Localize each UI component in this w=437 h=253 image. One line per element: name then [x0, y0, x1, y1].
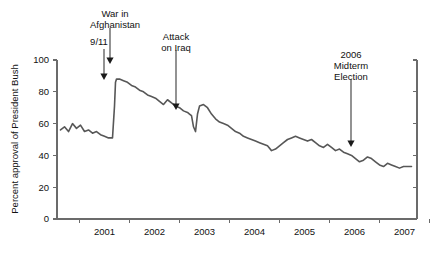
y-tick-label: 80	[38, 86, 49, 97]
annotation-label: Attack	[163, 31, 190, 42]
x-tick-group: 2001200220032004200520062007	[80, 219, 430, 237]
x-tick-label: 2005	[294, 226, 315, 237]
annotation-label: War in	[101, 8, 128, 19]
x-tick-label: 2004	[244, 226, 265, 237]
y-tick-label: 20	[38, 182, 49, 193]
x-tick-label: 2001	[94, 226, 115, 237]
annotation-label: Midterm	[334, 60, 368, 71]
y-tick-label: 40	[38, 150, 49, 161]
y-tick-label: 0	[44, 213, 49, 224]
x-tick-label: 2003	[194, 226, 215, 237]
y-tick-label: 60	[38, 118, 49, 129]
y-axis-title: Percent approval of President Bush	[9, 64, 20, 213]
x-tick-label: 2007	[394, 226, 415, 237]
axes-group	[57, 60, 417, 219]
annotation-label: Afghanistan	[90, 19, 140, 30]
chart-canvas: Percent approval of President Bush 02040…	[0, 0, 437, 253]
annotation-label: 9/11	[90, 36, 108, 47]
annotation-arrow-head	[100, 74, 107, 81]
annotation-arrow-head	[106, 58, 113, 65]
annotation-arrow-head	[347, 141, 354, 148]
y-tick-label: 100	[33, 54, 49, 65]
x-tick-label: 2006	[344, 226, 365, 237]
annotation-attack-on-iraq: Attackon Iraq	[161, 31, 191, 110]
approval-rating-chart: Percent approval of President Bush 02040…	[0, 0, 437, 253]
annotation-midterm-election-2006: 2006MidtermElection	[334, 49, 368, 147]
annotation-label: 2006	[340, 49, 361, 60]
annotation-nine-eleven: 9/11	[90, 36, 108, 80]
approval-series-line	[61, 79, 412, 168]
x-tick-label: 2002	[144, 226, 165, 237]
